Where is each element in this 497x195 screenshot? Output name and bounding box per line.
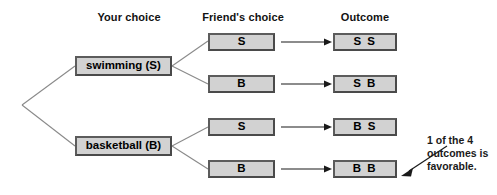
arrow-head-outcome-4 <box>324 166 332 173</box>
branch-basketball-to-s <box>172 127 208 146</box>
node-outcome-sb[interactable]: S B <box>333 75 397 93</box>
arrow-head-outcome-1 <box>324 39 332 46</box>
arrow-head-outcome-3 <box>324 124 332 131</box>
arrow-head-outcome-2 <box>324 81 332 88</box>
node-friend-choice-1[interactable]: S <box>208 33 275 51</box>
branch-root-to-basketball <box>22 105 75 146</box>
node-friend-choice-4[interactable]: B <box>208 160 275 178</box>
annotation-caption: 1 of the 4 outcomes is favorable. <box>427 134 497 173</box>
tree-diagram: Your choice Friend's choice Outcome <box>0 0 497 195</box>
node-label: swimming (S) <box>86 60 161 72</box>
node-label: B B <box>353 163 377 175</box>
column-header-your-choice: Your choice <box>74 11 184 23</box>
node-outcome-bs[interactable]: B S <box>333 118 397 136</box>
branch-basketball-to-b <box>172 146 208 169</box>
node-label: B <box>237 78 245 90</box>
node-outcome-bb[interactable]: B B <box>333 160 397 178</box>
column-header-friends-choice: Friend's choice <box>188 11 298 23</box>
branch-swimming-to-s <box>172 41 208 66</box>
node-label: B S <box>353 121 377 133</box>
annotation-line-1: 1 of the 4 <box>427 134 497 147</box>
annotation-line-3: favorable. <box>427 160 497 173</box>
branch-root-to-swimming <box>22 66 75 105</box>
node-friend-choice-3[interactable]: S <box>208 118 275 136</box>
node-label: S B <box>353 78 377 90</box>
node-outcome-ss[interactable]: S S <box>333 33 397 51</box>
column-header-outcome: Outcome <box>310 11 420 23</box>
node-your-choice-swimming[interactable]: swimming (S) <box>75 56 172 76</box>
node-friend-choice-2[interactable]: B <box>208 75 275 93</box>
node-label: S <box>238 121 246 133</box>
node-label: B <box>237 163 245 175</box>
node-label: S <box>238 36 246 48</box>
node-label: basketball (B) <box>86 140 161 152</box>
node-label: S S <box>353 36 376 48</box>
branch-swimming-to-b <box>172 66 208 84</box>
annotation-line-2: outcomes is <box>427 147 497 160</box>
node-your-choice-basketball[interactable]: basketball (B) <box>75 136 172 156</box>
